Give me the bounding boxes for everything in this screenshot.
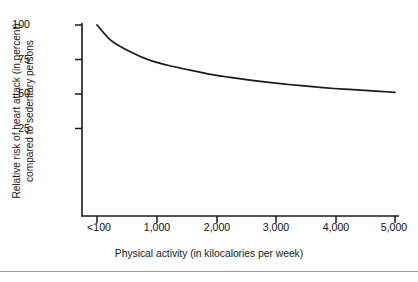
x-tick-label-2000: 2,000 bbox=[204, 222, 231, 233]
x-tick-label-3000: 3,000 bbox=[263, 222, 290, 233]
x-axis-tick-labels: <100 1,000 2,000 3,000 4,000 5,000 bbox=[0, 0, 418, 282]
x-tick-label-5000: 5,000 bbox=[381, 222, 408, 233]
bottom-divider bbox=[0, 271, 418, 272]
x-tick-label-lt100: <100 bbox=[87, 222, 111, 233]
x-tick-label-1000: 1,000 bbox=[144, 222, 171, 233]
chart-figure: Relative risk of heart attack (in percen… bbox=[0, 0, 418, 282]
x-axis-title: Physical activity (in kilocalories per w… bbox=[0, 247, 418, 260]
x-tick-label-4000: 4,000 bbox=[323, 222, 350, 233]
